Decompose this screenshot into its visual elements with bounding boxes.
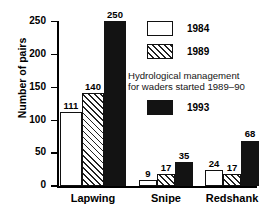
y-tick-label: 0 (18, 180, 46, 190)
y-tick-mark (51, 21, 57, 22)
legend-label-1989: 1989 (187, 47, 209, 57)
bar-redshank-1989 (223, 174, 241, 185)
y-tick-label: 50 (18, 147, 46, 157)
x-axis-line (57, 186, 257, 189)
x-axis-label-redshank: Redshank (187, 192, 261, 204)
y-tick-mark (51, 54, 57, 55)
y-tick-label: 200 (18, 49, 46, 59)
bar-value-lapwing-1989: 140 (79, 82, 107, 92)
y-tick-label: 150 (18, 82, 46, 92)
bar-value-lapwing-1984: 111 (57, 101, 85, 111)
y-tick-label: 250 (18, 16, 46, 26)
bar-lapwing-1989 (82, 93, 104, 185)
y-tick-mark (51, 87, 57, 88)
annotation-line-1: Hydrological management (128, 70, 239, 82)
bar-redshank-1993 (241, 141, 259, 186)
bar-chart: Number of pairs 250 200 150 100 50 0 111… (0, 0, 261, 221)
legend-label-1993: 1993 (187, 103, 209, 113)
bar-snipe-1993 (175, 162, 193, 185)
legend-swatch-1984 (147, 21, 173, 36)
y-tick-mark (51, 120, 57, 121)
bar-lapwing-1993 (104, 21, 126, 186)
bar-value-snipe-1993: 35 (170, 151, 198, 161)
bar-value-redshank-1993: 68 (236, 129, 261, 139)
bar-lapwing-1984 (60, 112, 82, 185)
y-tick-label: 100 (18, 115, 46, 125)
bar-snipe-1989 (157, 174, 175, 185)
annotation-line-2: for waders started 1989–90 (128, 81, 245, 93)
y-tick-mark (51, 152, 57, 153)
legend-label-1984: 1984 (187, 24, 209, 34)
bar-value-lapwing-1993: 250 (101, 10, 129, 20)
bar-snipe-1984 (139, 180, 157, 186)
legend-swatch-1993 (147, 100, 173, 115)
legend-swatch-1989 (147, 44, 173, 59)
y-axis-title: Number of pairs (16, 8, 28, 148)
